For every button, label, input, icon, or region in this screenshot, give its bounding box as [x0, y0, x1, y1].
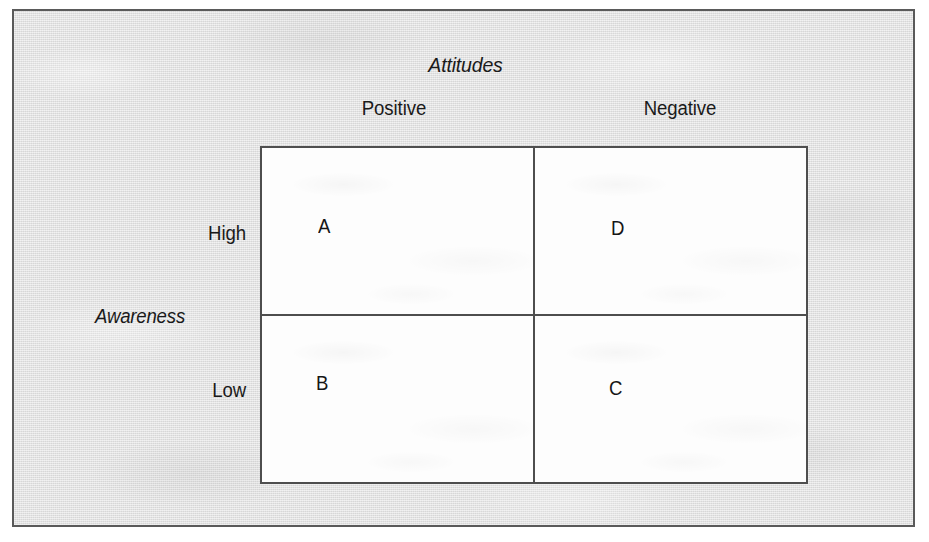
- quadrant-label-a: A: [318, 215, 330, 238]
- column-header-positive: Positive: [320, 97, 469, 120]
- quadrant-cell-a: A: [262, 148, 533, 314]
- quadrant-grid: A D B C: [260, 146, 808, 484]
- row-axis-title: Awareness: [60, 305, 220, 328]
- column-header-negative: Negative: [606, 97, 755, 120]
- cell-smudge-b: [262, 316, 533, 482]
- row-header-low: Low: [123, 379, 246, 402]
- quadrant-cell-c: C: [535, 316, 806, 482]
- quadrant-cell-b: B: [262, 316, 533, 482]
- column-axis-title: Attitudes: [46, 53, 886, 77]
- quadrant-label-d: D: [611, 217, 624, 240]
- quadrant-label-b: B: [316, 372, 328, 395]
- awareness-attitudes-matrix-figure: Attitudes Positive Negative Awareness Hi…: [0, 0, 929, 542]
- cell-smudge-a: [262, 148, 533, 314]
- quadrant-label-c: C: [609, 377, 622, 400]
- cell-smudge-d: [535, 148, 806, 314]
- row-header-high: High: [123, 222, 246, 245]
- cell-smudge-c: [535, 316, 806, 482]
- figure-panel: Attitudes Positive Negative Awareness Hi…: [12, 9, 915, 527]
- quadrant-cell-d: D: [535, 148, 806, 314]
